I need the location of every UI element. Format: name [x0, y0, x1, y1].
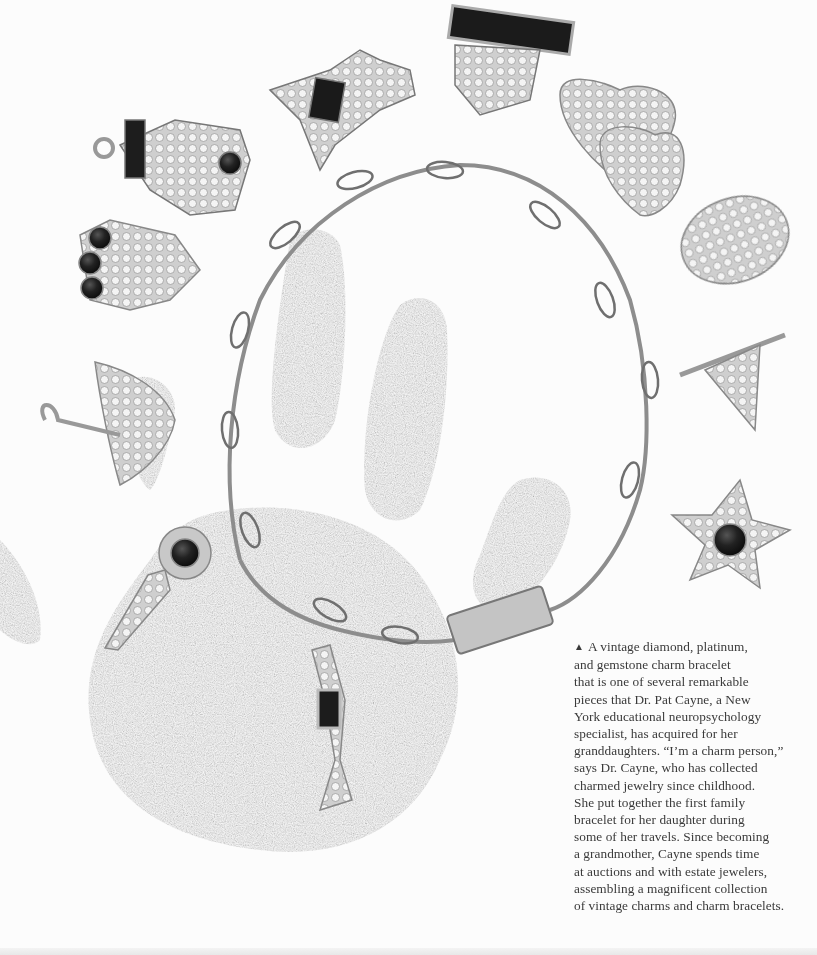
- photo-caption: ▲A vintage diamond, platinum, and gemsto…: [574, 638, 810, 914]
- caption-line: at auctions and with estate jewelers,: [574, 863, 810, 880]
- caption-line: some of her travels. Since becoming: [574, 828, 810, 845]
- caption-line: says Dr. Cayne, who has collected: [574, 759, 810, 776]
- caption-line: bracelet for her daughter during: [574, 811, 810, 828]
- caption-line: pieces that Dr. Pat Cayne, a New: [574, 691, 810, 708]
- magazine-page: ▲A vintage diamond, platinum, and gemsto…: [0, 0, 817, 955]
- caption-line: a grandmother, Cayne spends time: [574, 845, 810, 862]
- page-edge: [0, 948, 817, 955]
- caption-line: York educational neuropsychology: [574, 708, 810, 725]
- caption-line: of vintage charms and charm bracelets.: [574, 897, 810, 914]
- caption-line: granddaughters. “I’m a charm person,”: [574, 742, 810, 759]
- caption-line: charmed jewelry since childhood.: [574, 777, 810, 794]
- caption-line: and gemstone charm bracelet: [574, 656, 810, 673]
- caption-line: that is one of several remarkable: [574, 673, 810, 690]
- charm-pennant: [680, 335, 785, 430]
- handprint: [0, 229, 571, 852]
- charm-star: [672, 480, 790, 588]
- charm-anchor: [79, 220, 200, 310]
- charm-cat: [95, 120, 250, 215]
- triangle-marker-icon: ▲: [574, 641, 584, 652]
- charm-sapphire-bar: [448, 6, 573, 115]
- caption-line: ▲A vintage diamond, platinum,: [574, 638, 810, 656]
- charm-leaf-oval: [669, 182, 801, 299]
- caption-line: She put together the first family: [574, 794, 810, 811]
- charm-double-hearts: [560, 79, 684, 215]
- caption-line: assembling a magnificent collection: [574, 880, 810, 897]
- charm-dog: [270, 50, 415, 170]
- caption-line: specialist, has acquired for her: [574, 725, 810, 742]
